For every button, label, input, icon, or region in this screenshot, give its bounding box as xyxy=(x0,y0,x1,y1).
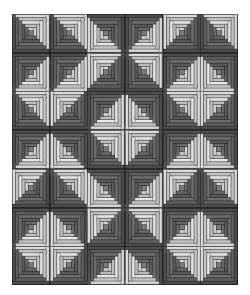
quilt-block xyxy=(87,53,125,92)
quilt-block xyxy=(125,130,163,169)
quilt-block xyxy=(125,169,163,208)
quilt-block xyxy=(163,91,201,130)
quilt-block xyxy=(125,208,163,247)
quilt-block xyxy=(125,91,163,130)
quilt-block xyxy=(125,53,163,92)
quilt-block xyxy=(200,246,238,285)
quilt-block xyxy=(87,130,125,169)
quilt-block xyxy=(87,14,125,53)
quilt-block xyxy=(87,169,125,208)
quilt-block xyxy=(12,91,50,130)
quilt-block xyxy=(163,14,201,53)
quilt-block xyxy=(12,169,50,208)
log-cabin-quilt xyxy=(12,14,238,285)
quilt-block xyxy=(200,14,238,53)
quilt-block xyxy=(50,53,88,92)
quilt-block xyxy=(12,14,50,53)
quilt-block xyxy=(87,246,125,285)
quilt-block xyxy=(125,246,163,285)
quilt-block xyxy=(12,246,50,285)
quilt-block xyxy=(50,169,88,208)
quilt-block xyxy=(50,208,88,247)
quilt-block xyxy=(50,14,88,53)
quilt-block xyxy=(12,208,50,247)
quilt-block xyxy=(200,130,238,169)
quilt-block xyxy=(163,130,201,169)
quilt-block xyxy=(87,91,125,130)
quilt-block xyxy=(50,130,88,169)
quilt-block xyxy=(163,208,201,247)
quilt-block xyxy=(50,246,88,285)
quilt-block xyxy=(163,53,201,92)
quilt-block xyxy=(12,53,50,92)
quilt-block xyxy=(163,169,201,208)
quilt-block xyxy=(200,208,238,247)
quilt-block xyxy=(50,91,88,130)
quilt-block xyxy=(12,130,50,169)
quilt-block xyxy=(200,53,238,92)
quilt-block xyxy=(125,14,163,53)
quilt-block xyxy=(87,208,125,247)
quilt-block xyxy=(200,91,238,130)
quilt-block xyxy=(200,169,238,208)
quilt-block xyxy=(163,246,201,285)
